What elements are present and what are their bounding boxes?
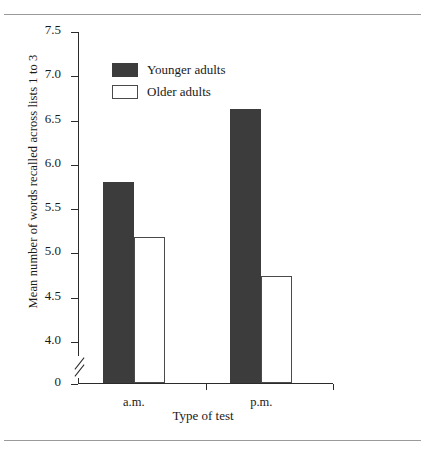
legend-item-older-adults: Older adults (112, 84, 226, 99)
y-tick: 5.5 (71, 209, 78, 210)
legend-swatch-icon (112, 85, 138, 99)
legend-item-younger-adults: Younger adults (112, 62, 226, 77)
y-tick-label: 5.5 (45, 200, 61, 213)
y-tick-label: 5.0 (45, 244, 61, 257)
y-tick: 4.0 (71, 342, 78, 343)
y-tick-label: 4.0 (45, 333, 61, 346)
bar-chart-figure: Mean number of words recalled across lis… (0, 14, 425, 441)
y-tick-label: 4.5 (45, 289, 61, 302)
y-tick: 4.5 (71, 298, 78, 299)
y-axis-title: Mean number of words recalled across lis… (26, 32, 41, 332)
x-axis-title: Type of test (68, 408, 338, 424)
x-tick (333, 384, 334, 390)
bar-pm-younger (230, 109, 261, 383)
y-tick: 6.0 (71, 165, 78, 166)
y-tick-label: 7.5 (45, 23, 61, 36)
y-axis-break-icon (71, 356, 87, 378)
y-axis-line (78, 32, 79, 384)
y-tick-label: 7.0 (45, 67, 61, 80)
legend-swatch-icon (112, 63, 138, 77)
y-tick: 7.0 (71, 76, 78, 77)
bar-am-older (134, 237, 165, 383)
y-tick-label: 0 (55, 375, 62, 388)
y-tick-label: 6.0 (45, 156, 61, 169)
x-tick (206, 384, 207, 390)
y-tick: 0 (71, 384, 78, 385)
bar-pm-older (261, 276, 292, 383)
y-tick-label: 6.5 (45, 112, 61, 125)
y-tick: 6.5 (71, 121, 78, 122)
legend-label: Older adults (147, 85, 211, 98)
y-tick: 5.0 (71, 253, 78, 254)
legend-label: Younger adults (147, 63, 226, 76)
chart-legend: Younger adultsOlder adults (112, 62, 226, 106)
y-tick: 7.5 (71, 32, 78, 33)
bar-am-younger (103, 182, 134, 383)
